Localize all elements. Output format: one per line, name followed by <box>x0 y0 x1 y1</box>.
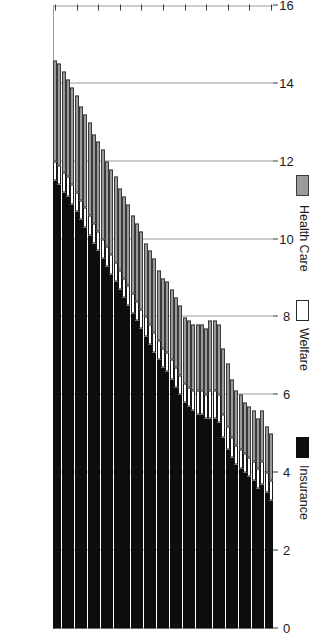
bar-segment-health-care <box>196 324 200 390</box>
bar-segment-health-care <box>226 363 230 425</box>
value-tick-label: 2 <box>270 543 304 558</box>
bar-segment-insurance <box>226 449 230 628</box>
bar-segment-welfare <box>265 472 269 491</box>
bar-group <box>126 5 130 628</box>
bar-segment-insurance <box>234 464 238 628</box>
bar-segment-health-care <box>187 320 191 386</box>
bar-segment-health-care <box>114 176 118 262</box>
bar-group <box>234 5 238 628</box>
bar-segment-welfare <box>57 165 61 184</box>
bar-segment-health-care <box>122 196 126 278</box>
legend-swatch-insurance <box>296 437 309 458</box>
bar-segment-health-care <box>165 281 169 351</box>
bar-group <box>174 5 178 628</box>
bar-segment-insurance <box>122 297 126 628</box>
bar-segment-insurance <box>66 196 70 628</box>
year-tick <box>163 4 164 10</box>
bar-segment-welfare <box>83 207 87 226</box>
bar-group <box>57 5 61 628</box>
bar-segment-welfare <box>144 317 148 336</box>
bar-group <box>208 5 212 628</box>
bar-segment-health-care <box>118 188 122 270</box>
bar-group <box>109 5 113 628</box>
bar-segment-welfare <box>183 383 187 402</box>
bar-segment-welfare <box>105 246 109 265</box>
bar-group <box>157 5 161 628</box>
bar-segment-health-care <box>178 305 182 375</box>
bar-segment-health-care <box>183 317 187 383</box>
bar-segment-welfare <box>200 390 204 413</box>
bar-group <box>161 5 165 628</box>
bar-segment-insurance <box>105 266 109 628</box>
bar-segment-insurance <box>144 336 148 628</box>
bar-segment-welfare <box>131 293 135 312</box>
bar-segment-insurance <box>204 418 208 628</box>
bar-segment-insurance <box>135 320 139 628</box>
bar-segment-welfare <box>230 437 234 456</box>
bar-segment-insurance <box>213 418 217 628</box>
value-tick-label: 6 <box>270 387 304 402</box>
bar-segment-insurance <box>252 480 256 628</box>
bar-segment-health-care <box>92 134 96 224</box>
bar-segment-welfare <box>79 200 83 219</box>
bar-segment-welfare <box>101 239 105 258</box>
bar-segment-insurance <box>139 328 143 628</box>
bar-segment-insurance <box>83 227 87 628</box>
bar-group <box>66 5 70 628</box>
bar-segment-insurance <box>96 250 100 628</box>
bar-segment-health-care <box>148 250 152 324</box>
legend-label: Insurance <box>297 465 311 520</box>
bar-group <box>53 5 57 628</box>
bar-segment-insurance <box>75 211 79 628</box>
bar-segment-health-care <box>230 379 234 437</box>
bar-segment-welfare <box>152 332 156 351</box>
value-tick-label: 0 <box>270 621 304 633</box>
bar-group <box>83 5 87 628</box>
bar-segment-health-care <box>96 141 100 231</box>
bar-segment-health-care <box>105 161 109 247</box>
bar-segment-welfare <box>96 231 100 250</box>
bar-segment-health-care <box>208 320 212 390</box>
bar-segment-health-care <box>70 87 74 184</box>
bar-group <box>105 5 109 628</box>
bar-segment-insurance <box>109 274 113 628</box>
bar-segment-welfare <box>92 223 96 242</box>
bar-group <box>191 5 195 628</box>
bar-group <box>204 5 208 628</box>
bar-group <box>70 5 74 628</box>
bar-segment-welfare <box>53 161 57 180</box>
bar-segment-health-care <box>53 60 57 161</box>
bar-segment-health-care <box>260 410 264 461</box>
bar-segment-health-care <box>256 418 260 469</box>
bar-segment-insurance <box>152 352 156 628</box>
bar-segment-insurance <box>260 484 264 628</box>
bar-segment-welfare <box>174 367 178 386</box>
bar-segment-health-care <box>174 297 178 367</box>
bar-segment-welfare <box>109 254 113 273</box>
bar-segment-health-care <box>217 324 221 394</box>
bar-segment-welfare <box>204 394 208 417</box>
year-tick <box>55 4 56 10</box>
bar-group <box>114 5 118 628</box>
bar-segment-welfare <box>252 461 256 480</box>
bar-segment-health-care <box>161 278 165 348</box>
bar-segment-welfare <box>114 262 118 281</box>
bar-segment-insurance <box>157 359 161 628</box>
bar-segment-welfare <box>135 301 139 320</box>
bar-segment-health-care <box>252 410 256 461</box>
legend-swatch-health-care <box>296 175 309 196</box>
bar-segment-health-care <box>191 324 195 390</box>
bar-segment-insurance <box>183 402 187 628</box>
bar-group <box>96 5 100 628</box>
bar-segment-health-care <box>109 169 113 255</box>
bar-group <box>131 5 135 628</box>
bar-segment-insurance <box>221 437 225 628</box>
bar-segment-welfare <box>217 394 221 421</box>
bar-segment-insurance <box>57 184 61 628</box>
year-tick <box>206 4 207 10</box>
year-tick <box>98 4 99 10</box>
bar-segment-welfare <box>221 414 225 437</box>
bar-segment-health-care <box>144 243 148 317</box>
bar-segment-welfare <box>243 453 247 472</box>
bar-group <box>252 5 256 628</box>
